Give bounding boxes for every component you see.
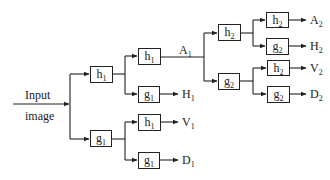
filter-g2-col-filter: g2 [267,86,290,103]
filter-h2-row-filter: h2 [266,12,289,28]
input-label: Input [25,89,50,101]
filter-subscript: 1 [150,94,154,103]
filter-h1-col-filter: h1 [138,114,161,131]
output-a2: A2 [310,14,323,31]
filter-g2-row-filter: g2 [266,38,289,55]
filter-subscript: 1 [150,160,154,169]
filter-subscript: 2 [231,32,235,41]
output-v1: V1 [182,116,195,133]
output-d2: D2 [310,88,323,105]
filter-subscript: 2 [230,81,234,90]
output-v2: V2 [310,62,323,79]
output-a1: A1 [179,44,192,61]
filter-subscript: 1 [102,138,106,147]
image-label: image [25,110,54,122]
filter-subscript: 1 [151,122,155,131]
filter-subscript: 2 [280,68,284,77]
filter-h2-level2: h2 [218,24,241,41]
filter-g1-level1: g1 [90,130,112,147]
filter-h1-level1: h1 [90,66,113,83]
filter-g2-level2: g2 [218,73,240,90]
filter-subscript: 2 [279,20,283,29]
filter-subscript: 1 [151,56,155,65]
output-d1: D1 [182,154,195,171]
filter-subscript: 2 [279,46,283,55]
filter-subscript: 1 [103,74,107,83]
filter-g1-col-filter: g1 [138,152,160,169]
output-h1: H1 [182,88,195,105]
filter-subscript: 2 [280,94,284,103]
filter-g1-row-filter: g1 [138,86,160,103]
filter-h1-row-filter: h1 [138,48,161,65]
filter-h2-col-filter: h2 [267,60,290,76]
output-h2: H2 [310,40,323,57]
